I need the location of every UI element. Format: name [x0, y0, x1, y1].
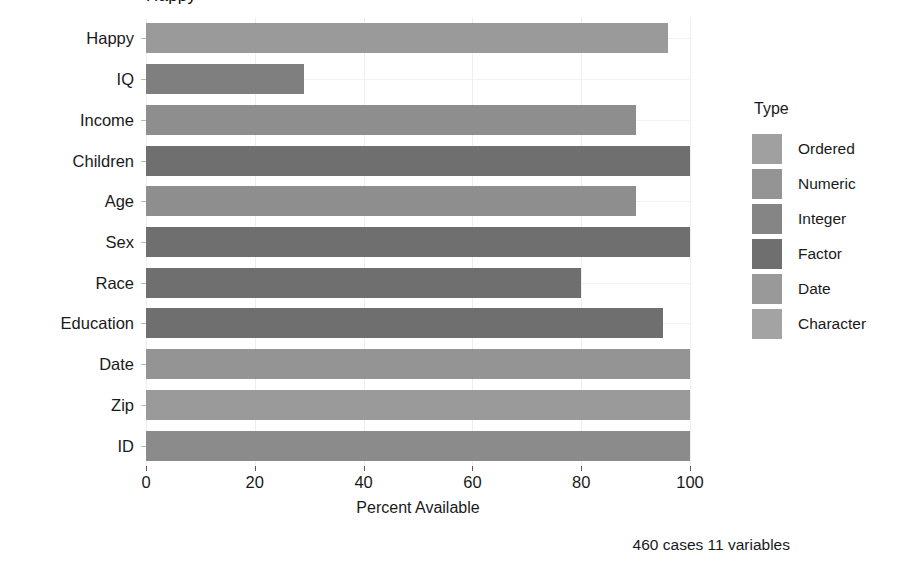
- x-axis-label-40: 40: [354, 473, 372, 492]
- legend-label: Integer: [798, 210, 846, 228]
- y-axis-tick: [141, 161, 146, 162]
- legend-swatch-icon: [752, 204, 782, 234]
- legend-label: Date: [798, 280, 831, 298]
- bar-age[interactable]: [146, 186, 636, 216]
- legend-swatch-icon: [752, 309, 782, 339]
- y-axis-tick: [141, 283, 146, 284]
- bar-row: [146, 186, 690, 216]
- y-axis-tick: [141, 120, 146, 121]
- legend-swatch-icon: [752, 239, 782, 269]
- y-axis-label-sex: Sex: [14, 234, 134, 250]
- bar-row: [146, 268, 690, 298]
- y-axis-label-income: Income: [14, 112, 134, 128]
- bar-row: [146, 308, 690, 338]
- legend-label: Numeric: [798, 175, 856, 193]
- legend-label: Character: [798, 315, 866, 333]
- x-axis-tick: [364, 466, 365, 471]
- bar-income[interactable]: [146, 105, 636, 135]
- y-axis-label-iq: IQ: [14, 71, 134, 87]
- y-axis-tick: [141, 38, 146, 39]
- x-axis-tick: [472, 466, 473, 471]
- legend-item-character[interactable]: Character: [752, 306, 892, 341]
- bar-row: [146, 64, 690, 94]
- bar-happy[interactable]: [146, 23, 668, 53]
- bar-row: [146, 146, 690, 176]
- legend-item-numeric[interactable]: Numeric: [752, 166, 892, 201]
- y-axis-label-happy: Happy: [14, 30, 134, 46]
- bar-row: [146, 105, 690, 135]
- y-axis-label-zip: Zip: [14, 397, 134, 413]
- y-axis-tick: [141, 201, 146, 202]
- bar-row: [146, 227, 690, 257]
- x-axis-label-80: 80: [572, 473, 590, 492]
- legend-item-ordered[interactable]: Ordered: [752, 131, 892, 166]
- bar-zip[interactable]: [146, 390, 690, 420]
- bar-sex[interactable]: [146, 227, 690, 257]
- bar-row: [146, 390, 690, 420]
- bar-education[interactable]: [146, 308, 663, 338]
- legend-swatch-icon: [752, 169, 782, 199]
- legend-label: Factor: [798, 245, 842, 263]
- bar-id[interactable]: [146, 431, 690, 461]
- y-axis-label-age: Age: [14, 193, 134, 209]
- y-axis: HappyIQIncomeChildrenAgeSexRaceEducation…: [14, 18, 146, 466]
- x-axis-label-0: 0: [141, 473, 150, 492]
- y-axis-label-race: Race: [14, 275, 134, 291]
- x-axis-label-20: 20: [246, 473, 264, 492]
- chart-title: Happy: [146, 0, 196, 6]
- chart-container: Happy HappyIQIncomeChildrenAgeSexRaceEdu…: [0, 0, 901, 569]
- chart-caption: 460 cases 11 variables: [0, 536, 790, 554]
- legend-swatch-icon: [752, 134, 782, 164]
- x-axis-tick: [690, 466, 691, 471]
- bar-iq[interactable]: [146, 64, 304, 94]
- y-axis-label-children: Children: [14, 153, 134, 169]
- y-axis-tick: [141, 323, 146, 324]
- y-axis-label-id: ID: [14, 438, 134, 454]
- legend-items: OrderedNumericIntegerFactorDateCharacter: [752, 131, 892, 341]
- bar-date[interactable]: [146, 349, 690, 379]
- legend-swatch-icon: [752, 274, 782, 304]
- bar-row: [146, 431, 690, 461]
- x-axis-label-100: 100: [676, 473, 704, 492]
- bar-row: [146, 23, 690, 53]
- x-axis-title: Percent Available: [146, 499, 690, 517]
- plot-panel: [146, 18, 690, 466]
- legend-item-date[interactable]: Date: [752, 271, 892, 306]
- x-axis-tick: [146, 466, 147, 471]
- gridline-vertical: [690, 18, 691, 466]
- bar-children[interactable]: [146, 146, 690, 176]
- y-axis-tick: [141, 405, 146, 406]
- legend-title: Type: [754, 100, 892, 118]
- y-axis-tick: [141, 79, 146, 80]
- legend: Type OrderedNumericIntegerFactorDateChar…: [752, 100, 892, 341]
- bar-race[interactable]: [146, 268, 581, 298]
- legend-item-factor[interactable]: Factor: [752, 236, 892, 271]
- bar-row: [146, 349, 690, 379]
- x-axis-tick: [581, 466, 582, 471]
- legend-item-integer[interactable]: Integer: [752, 201, 892, 236]
- x-axis-tick: [255, 466, 256, 471]
- x-axis-label-60: 60: [463, 473, 481, 492]
- y-axis-tick: [141, 242, 146, 243]
- y-axis-label-education: Education: [14, 315, 134, 331]
- y-axis-tick: [141, 446, 146, 447]
- y-axis-tick: [141, 364, 146, 365]
- y-axis-label-date: Date: [14, 356, 134, 372]
- legend-label: Ordered: [798, 140, 855, 158]
